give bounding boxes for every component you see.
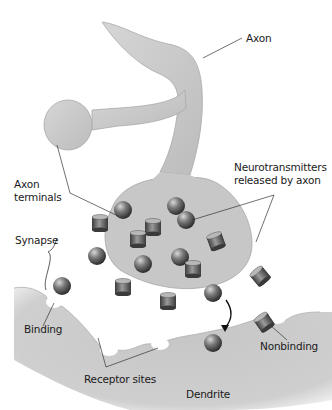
label-dendrite: Dendrite [186, 388, 230, 401]
label-binding: Binding [24, 323, 62, 336]
label-neurotransmitters: Neurotransmitters released by axon [234, 161, 327, 187]
label-axon-terminals: Axon terminals [14, 178, 62, 204]
axon [44, 22, 202, 175]
label-synapse: Synapse [15, 234, 58, 247]
label-axon: Axon [246, 32, 271, 45]
label-nonbinding: Nonbinding [260, 340, 318, 353]
synapse-diagram: Axon Axon terminals Neurotransmitters re… [0, 0, 332, 410]
release-arrow [225, 300, 231, 328]
label-receptor-sites: Receptor sites [84, 373, 156, 386]
axon-terminal [105, 172, 252, 289]
